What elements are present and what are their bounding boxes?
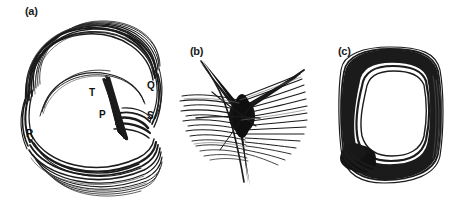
- point-label-p: P: [99, 110, 106, 120]
- panel-a-drawing: [0, 0, 180, 210]
- point-label-q: Q: [147, 81, 155, 91]
- panel-a: (a) T Q P S R: [0, 0, 180, 210]
- point-label-t: T: [89, 88, 95, 98]
- panel-label-c: (c): [338, 46, 351, 57]
- point-label-r: R: [26, 129, 33, 139]
- panel-c-drawing: [310, 0, 465, 210]
- figure-root: (a) T Q P S R: [0, 0, 465, 210]
- point-label-s: S: [147, 111, 154, 121]
- panel-b-drawing: [178, 0, 313, 210]
- panel-label-a: (a): [25, 6, 38, 17]
- panel-c: (c): [310, 0, 465, 210]
- panel-label-b: (b): [190, 46, 203, 57]
- panel-b: (b): [178, 0, 313, 210]
